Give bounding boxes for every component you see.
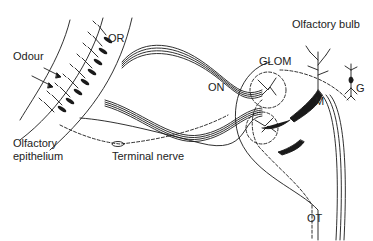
bulb-outline [235, 62, 318, 240]
glomerular-branches [255, 78, 276, 132]
label-ot: OT [307, 212, 322, 224]
epithelium-basal-line [20, 20, 70, 120]
olfactory-diagram [0, 0, 373, 241]
label-m: M [315, 95, 324, 107]
label-on: ON [208, 81, 225, 93]
mitral-cells [262, 90, 322, 155]
label-olfactory-epithelium-line2: epithelium [13, 150, 63, 162]
lateral-olfactory-tract [322, 95, 345, 240]
label-g: G [356, 82, 365, 94]
label-terminal-nerve: Terminal nerve [112, 150, 184, 162]
mitral-dendrites [306, 46, 330, 90]
label-odour: Odour [13, 50, 44, 62]
receptor-neurons [39, 21, 106, 112]
label-olfactory-epithelium-line1: Olfactory [13, 137, 57, 149]
bulb-inner-outline [252, 100, 312, 240]
epithelium-outer-line [20, 18, 103, 140]
label-olfactory-bulb: Olfactory bulb [292, 18, 360, 30]
label-glom: GLOM [259, 55, 291, 67]
olfactory-nerve-lower [80, 100, 262, 146]
olfactory-nerve-upper [122, 45, 262, 98]
label-or: OR [108, 32, 125, 44]
